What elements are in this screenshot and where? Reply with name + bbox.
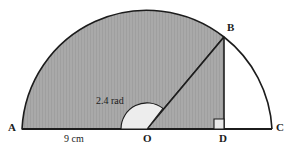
vertex-label-b: B	[227, 22, 234, 33]
angle-measure-label: 2.4 rad	[96, 96, 124, 106]
arc-b-to-c	[224, 37, 272, 129]
vertex-label-d: D	[219, 133, 227, 144]
vertex-label-o: O	[143, 133, 152, 144]
right-angle-marker	[214, 119, 224, 129]
geometry-figure: A B C O D 2.4 rad 9 cm	[0, 0, 293, 159]
vertex-label-c: C	[276, 122, 284, 133]
vertex-label-a: A	[8, 122, 16, 133]
radius-measure-label: 9 cm	[64, 134, 84, 144]
